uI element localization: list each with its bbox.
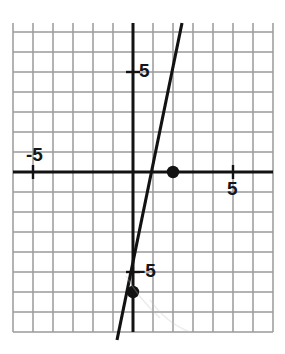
graph-figure: 5 -5 5 -5 <box>0 0 285 354</box>
y-axis-tick-label-negative-5: -5 <box>139 261 156 280</box>
coordinate-plane <box>0 0 285 354</box>
x-axis-tick-label-5: 5 <box>227 179 238 198</box>
x-axis-tick-label-negative-5: -5 <box>26 145 43 164</box>
pencil-smudge <box>126 276 190 332</box>
y-axis-tick-label-5: 5 <box>139 61 150 80</box>
data-point <box>167 166 179 178</box>
